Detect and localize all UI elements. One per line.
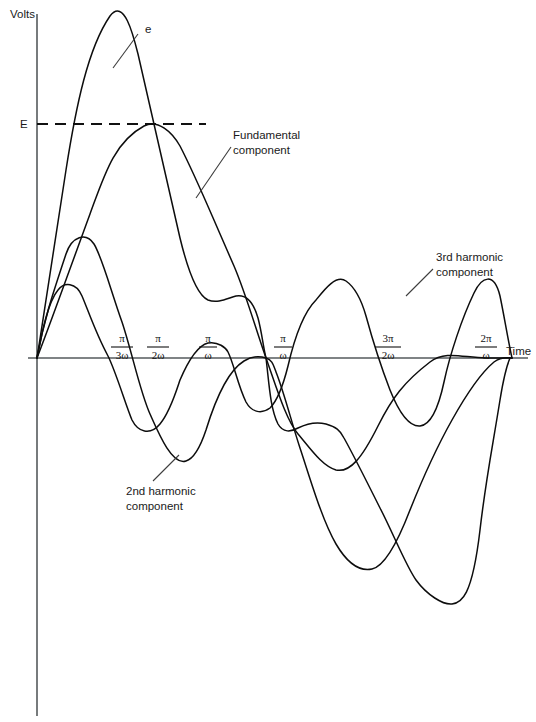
callout-second-line1: 2nd harmonic xyxy=(126,485,196,497)
xtick-pi-2w: π 2ω xyxy=(147,332,169,361)
callout-leader-second xyxy=(153,455,179,481)
callout-fundamental-line2: component xyxy=(233,144,291,156)
xtick-2pi-w: 2π ω xyxy=(475,332,497,361)
xtick-pi-2w-numerator: π xyxy=(155,332,161,344)
callout-second-line2: component xyxy=(126,500,184,512)
xtick-pi-w-second-denominator: ω xyxy=(279,349,286,361)
xtick-pi-2w-denominator: 2ω xyxy=(152,349,165,361)
curve-3rd-harmonic xyxy=(37,279,512,431)
waveform-plot: π 3ω π 2ω π ω π ω 3π 2ω 2 xyxy=(0,0,536,722)
e-level-label: E xyxy=(20,118,28,130)
callout-leader-composite xyxy=(113,34,138,68)
y-axis-label: Volts xyxy=(10,8,35,20)
callout-leader-fundamental xyxy=(196,147,231,198)
xtick-2pi-w-denominator: ω xyxy=(482,349,489,361)
xtick-2pi-w-numerator: 2π xyxy=(480,332,492,344)
xtick-3pi-2w-denominator: 2ω xyxy=(382,349,395,361)
callout-composite-e: e xyxy=(145,23,151,35)
curve-fundamental xyxy=(37,124,512,470)
curve-composite-e xyxy=(37,11,510,604)
xtick-pi-w-first: π ω xyxy=(199,332,217,361)
callout-third-line2: component xyxy=(436,266,494,278)
xtick-3pi-2w-numerator: 3π xyxy=(382,332,394,344)
xtick-pi-3w: π 3ω xyxy=(111,332,133,361)
harmonic-components-figure: π 3ω π 2ω π ω π ω 3π 2ω 2 xyxy=(0,0,536,722)
callout-third-line1: 3rd harmonic xyxy=(436,251,503,263)
callout-leader-third xyxy=(406,269,433,296)
xtick-pi-3w-denominator: 3ω xyxy=(116,349,129,361)
callout-fundamental-line1: Fundamental xyxy=(233,129,300,141)
xtick-pi-w-first-denominator: ω xyxy=(204,349,211,361)
xtick-pi-w-second-numerator: π xyxy=(280,332,286,344)
x-axis-label: Time xyxy=(506,345,531,357)
xtick-pi-3w-numerator: π xyxy=(119,332,125,344)
xtick-pi-w-second: π ω xyxy=(274,332,292,361)
xtick-pi-w-first-numerator: π xyxy=(205,332,211,344)
